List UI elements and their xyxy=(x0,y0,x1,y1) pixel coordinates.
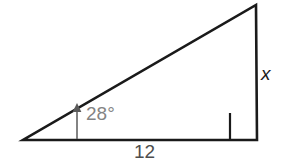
adjacent-side-label: 12 xyxy=(134,142,155,161)
angle-label: 28° xyxy=(86,104,115,123)
triangle-outline xyxy=(23,5,257,140)
opposite-side-label: x xyxy=(261,64,271,83)
right-triangle-figure: 28° x 12 xyxy=(0,0,288,165)
right-angle-marker-icon xyxy=(230,113,257,140)
